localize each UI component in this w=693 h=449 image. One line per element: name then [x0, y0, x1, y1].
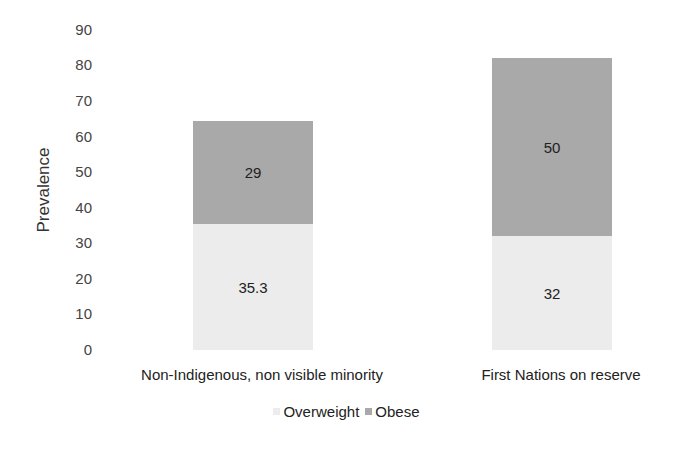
bar-segment-overweight: 32 [492, 236, 612, 350]
legend-label: Obese [375, 403, 419, 420]
y-axis-label: Prevalence [34, 147, 54, 232]
y-tick: 60 [70, 129, 92, 145]
data-label: 32 [544, 285, 561, 302]
legend: Overweight Obese [0, 403, 693, 420]
data-label: 35.3 [238, 279, 267, 296]
bar-segment-obese: 50 [492, 58, 612, 236]
legend-swatch-icon [273, 408, 280, 415]
legend-label: Overweight [283, 403, 359, 420]
bar-segment-obese: 29 [193, 121, 313, 224]
bar-segment-overweight: 35.3 [193, 224, 313, 350]
data-label: 50 [544, 139, 561, 156]
y-tick: 70 [70, 93, 92, 109]
y-tick: 0 [70, 342, 92, 358]
legend-item-overweight: Overweight [273, 403, 359, 420]
y-tick: 90 [70, 22, 92, 38]
y-tick: 40 [70, 200, 92, 216]
y-tick: 30 [70, 235, 92, 251]
data-label: 29 [245, 164, 262, 181]
legend-item-obese: Obese [365, 403, 419, 420]
category-label: First Nations on reserve [481, 366, 640, 383]
legend-swatch-icon [365, 408, 372, 415]
y-tick: 50 [70, 164, 92, 180]
y-tick: 80 [70, 57, 92, 73]
y-tick: 10 [70, 306, 92, 322]
y-tick: 20 [70, 271, 92, 287]
category-label: Non-Indigenous, non visible minority [141, 366, 383, 383]
